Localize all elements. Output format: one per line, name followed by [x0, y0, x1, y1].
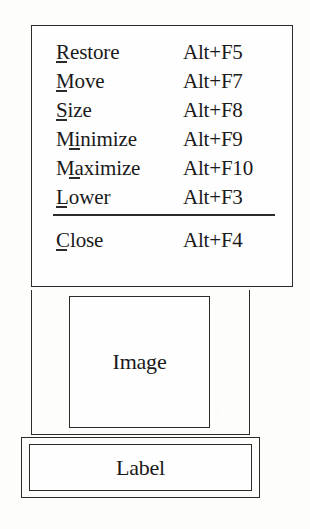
menu-separator [53, 214, 275, 216]
menu-item-accelerator: Alt+F9 [183, 129, 243, 150]
menu-item-list: RestoreAlt+F5MoveAlt+F7SizeAlt+F8Minimiz… [32, 26, 292, 286]
menu-item-accelerator: Alt+F8 [183, 100, 243, 121]
menu-item-label: Size [56, 100, 92, 121]
menu-item-accelerator: Alt+F7 [183, 71, 243, 92]
menu-item-mnemonic-underline [69, 148, 80, 150]
menu-item-mnemonic-underline [69, 177, 80, 179]
menu-item-mnemonic-underline [56, 206, 67, 208]
menu-item-mnemonic-underline [56, 61, 67, 63]
label-placeholder[interactable]: Label [29, 444, 252, 491]
image-placeholder[interactable]: Image [69, 296, 210, 428]
menu-item-close[interactable]: CloseAlt+F4 [32, 226, 292, 255]
menu-item-move[interactable]: MoveAlt+F7 [32, 67, 292, 96]
menu-item-accelerator: Alt+F4 [183, 230, 243, 251]
figure-canvas: RestoreAlt+F5MoveAlt+F7SizeAlt+F8Minimiz… [0, 0, 310, 529]
menu-item-mnemonic-underline [56, 90, 67, 92]
menu-item-size[interactable]: SizeAlt+F8 [32, 96, 292, 125]
menu-item-mnemonic-underline [56, 119, 67, 121]
image-placeholder-label: Image [113, 351, 167, 373]
menu-item-maximize[interactable]: MaximizeAlt+F10 [32, 154, 292, 183]
menu-item-label: Restore [56, 42, 119, 63]
menu-item-accelerator: Alt+F3 [183, 187, 243, 208]
menu-item-minimize[interactable]: MinimizeAlt+F9 [32, 125, 292, 154]
menu-item-label: Maximize [56, 158, 140, 179]
label-placeholder-label: Label [116, 457, 165, 479]
window-operations-menu[interactable]: RestoreAlt+F5MoveAlt+F7SizeAlt+F8Minimiz… [31, 25, 293, 287]
menu-item-label: Close [56, 230, 103, 251]
menu-item-label: Minimize [56, 129, 137, 150]
menu-item-mnemonic-underline [56, 249, 67, 251]
menu-item-label: Lower [56, 187, 110, 208]
menu-item-accelerator: Alt+F10 [183, 158, 253, 179]
menu-item-label: Move [56, 71, 105, 92]
menu-item-lower[interactable]: LowerAlt+F3 [32, 183, 292, 212]
menu-item-accelerator: Alt+F5 [183, 42, 243, 63]
menu-item-restore[interactable]: RestoreAlt+F5 [32, 38, 292, 67]
